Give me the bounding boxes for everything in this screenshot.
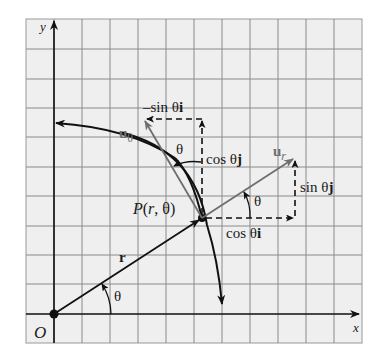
x-axis-label: x <box>352 320 359 335</box>
sin-j-label: sin θj <box>300 179 333 195</box>
utheta-angle-label: θ <box>176 141 183 157</box>
cos-i-label: cos θi <box>226 225 261 241</box>
y-axis-label: y <box>38 19 46 34</box>
origin-label: O <box>34 323 46 342</box>
cos-j-label: cos θj <box>206 151 242 167</box>
ur-angle-label: θ <box>254 193 261 209</box>
neg-sin-i-label: –sin θi <box>142 99 183 115</box>
point-P-label: P(r, θ) <box>132 200 175 218</box>
r-label: r <box>119 249 126 265</box>
origin-angle-label: θ <box>114 288 121 304</box>
polar-unit-vectors-diagram: y x O r θ P(r, θ) ur cos θi sin θj θ uθ … <box>0 0 383 355</box>
